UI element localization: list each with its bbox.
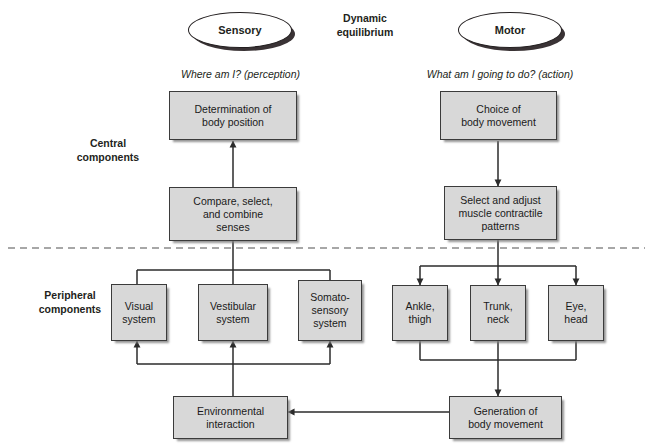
- label-central-components: Central components: [62, 137, 154, 164]
- label-peripheral-components: Peripheral components: [24, 289, 116, 316]
- box-visual-system: Visual system: [111, 284, 167, 341]
- center-title: Dynamic equilibrium: [310, 12, 420, 39]
- box-label: Environmental interaction: [197, 405, 264, 431]
- box-label: Visual system: [122, 300, 155, 326]
- question-motor: What am I going to do? (action): [395, 68, 605, 81]
- box-compare-select-combine-senses: Compare, select, and combine senses: [169, 187, 297, 241]
- box-label: Somato- sensory system: [310, 291, 350, 330]
- box-vestibular-system: Vestibular system: [198, 284, 268, 341]
- box-label: Determination of body position: [194, 103, 271, 129]
- box-label: Select and adjust muscle contractile pat…: [458, 194, 542, 233]
- oval-motor: Motor: [458, 12, 562, 48]
- box-somatosensory-system: Somato- sensory system: [298, 280, 362, 341]
- box-label: Compare, select, and combine senses: [193, 195, 272, 234]
- diagram-canvas: Sensory Motor Dynamic equilibrium Where …: [0, 0, 650, 445]
- box-eye-head: Eye, head: [548, 285, 604, 341]
- box-determination-of-body-position: Determination of body position: [169, 91, 297, 140]
- box-label: Vestibular system: [210, 300, 256, 326]
- box-generation-of-body-movement: Generation of body movement: [449, 396, 562, 439]
- box-environmental-interaction: Environmental interaction: [173, 396, 288, 439]
- question-sensory: Where am I? (perception): [143, 68, 338, 81]
- box-label: Choice of body movement: [461, 103, 536, 129]
- oval-sensory-label: Sensory: [218, 24, 261, 36]
- box-label: Generation of body movement: [468, 405, 543, 431]
- box-label: Trunk, neck: [483, 300, 512, 326]
- oval-motor-label: Motor: [495, 24, 526, 36]
- box-trunk-neck: Trunk, neck: [470, 285, 526, 341]
- box-select-and-adjust-muscle-contractile-patterns: Select and adjust muscle contractile pat…: [444, 186, 557, 240]
- oval-sensory: Sensory: [188, 12, 292, 48]
- box-label: Ankle, thigh: [405, 300, 434, 326]
- box-ankle-thigh: Ankle, thigh: [392, 285, 448, 341]
- box-choice-of-body-movement: Choice of body movement: [440, 91, 557, 140]
- box-label: Eye, head: [564, 300, 587, 326]
